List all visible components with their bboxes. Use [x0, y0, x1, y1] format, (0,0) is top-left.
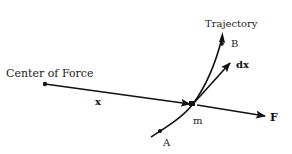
mass-label: m	[193, 115, 203, 126]
position-vector-x-line	[45, 84, 190, 104]
mass-m-point	[189, 101, 195, 106]
force-vector-line	[197, 105, 265, 116]
force-trajectory-diagram: Center of Force Trajectory B dx x m F A	[0, 0, 292, 154]
point-b-dot	[220, 42, 224, 46]
trajectory-curve	[151, 38, 222, 137]
point-a-label: A	[162, 137, 171, 148]
center-of-force-point	[43, 82, 47, 86]
center-of-force-label: Center of Force	[6, 67, 93, 80]
trajectory-arrow-icon	[219, 32, 225, 43]
trajectory-label: Trajectory	[205, 18, 258, 29]
displacement-label: dx	[236, 59, 250, 70]
force-label: F	[270, 111, 278, 124]
point-a-dot	[158, 129, 162, 133]
point-b-label: B	[231, 38, 238, 49]
position-vector-label: x	[95, 96, 102, 107]
